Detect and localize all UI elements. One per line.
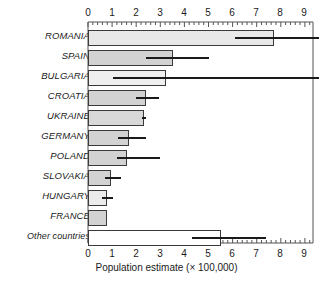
population-estimate-bar-chart: ROMANIA SPAIN BULGARIA CROATIA UKRAINE G…	[0, 0, 333, 283]
plot-area	[0, 0, 333, 283]
bar-ukraine[interactable]	[88, 111, 143, 126]
bar-france[interactable]	[88, 211, 106, 226]
